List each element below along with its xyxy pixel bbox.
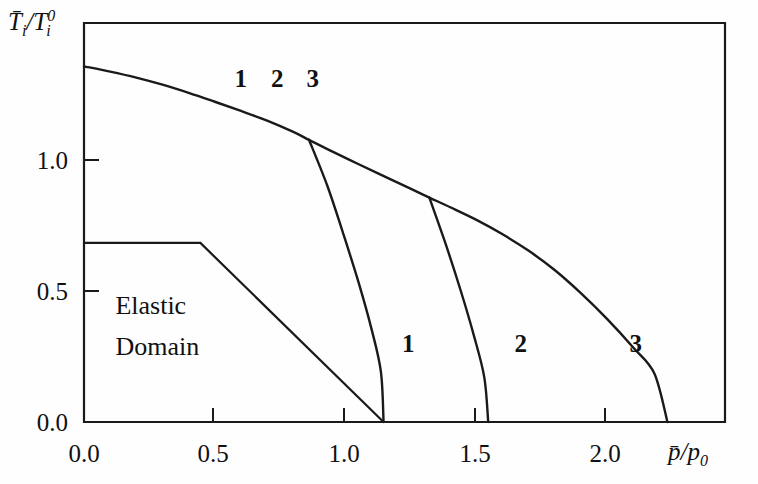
annotation-bottom-3: 3 bbox=[630, 330, 643, 357]
annotation-bottom-2: 2 bbox=[514, 330, 527, 357]
x-axis-label-text: p̄/p0 bbox=[666, 438, 708, 469]
x-ticklabel-1: 0.5 bbox=[197, 440, 228, 467]
curve-branch-2 bbox=[429, 198, 488, 422]
y-axis-label-text: T̄i/T0i bbox=[8, 7, 55, 39]
y-ticklabel-2: 1.0 bbox=[37, 147, 68, 174]
y-axis-sub-i2: i bbox=[46, 22, 50, 39]
figure-container: 0.0 0.5 1.0 0.0 0.5 1.0 1.5 2.0 Elastic … bbox=[0, 0, 758, 484]
y-axis-label: T̄i/T0i bbox=[8, 7, 55, 39]
x-ticklabel-3: 1.5 bbox=[459, 440, 490, 467]
y-tick-marks bbox=[84, 160, 99, 291]
y-ticklabel-1: 0.5 bbox=[37, 278, 68, 305]
annotation-domain: Domain bbox=[115, 332, 199, 361]
axis-frame bbox=[84, 23, 725, 422]
x-axis-slash-p: /p bbox=[679, 438, 700, 465]
curve-envelope bbox=[84, 66, 667, 422]
annotation-layer: Elastic Domain 1 2 3 1 2 3 bbox=[115, 65, 642, 361]
annotation-elastic: Elastic bbox=[115, 291, 186, 320]
x-axis-sub-0: 0 bbox=[700, 452, 708, 469]
x-ticklabel-2: 1.0 bbox=[328, 440, 359, 467]
x-axis-label: p̄/p0 bbox=[666, 438, 708, 469]
plot-area: 0.0 0.5 1.0 0.0 0.5 1.0 1.5 2.0 Elastic … bbox=[0, 0, 758, 484]
annotation-top-1: 1 bbox=[234, 65, 247, 92]
x-axis-overbar-p: p̄ bbox=[666, 438, 681, 465]
annotation-bottom-1: 1 bbox=[402, 330, 415, 357]
annotation-top-2: 2 bbox=[271, 65, 284, 92]
x-ticklabel-0: 0.0 bbox=[68, 440, 99, 467]
curve-branch-1 bbox=[309, 140, 384, 422]
x-tick-marks bbox=[213, 408, 605, 422]
x-ticklabel-4: 2.0 bbox=[589, 440, 620, 467]
y-ticklabel-0: 0.0 bbox=[37, 409, 68, 436]
annotation-top-3: 3 bbox=[306, 65, 319, 92]
